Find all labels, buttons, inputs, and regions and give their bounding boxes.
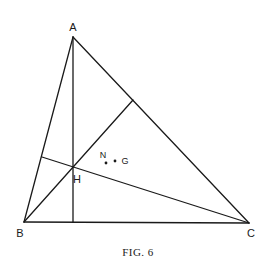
side-bc (24, 222, 249, 223)
point-g-dot (114, 160, 117, 163)
label-n: N (100, 150, 107, 160)
point-n-dot (105, 162, 108, 165)
label-g: G (121, 156, 128, 166)
label-h: H (73, 173, 81, 185)
label-b: B (16, 227, 23, 239)
figure-caption: FIG. 6 (122, 246, 154, 258)
label-a: A (69, 21, 77, 33)
label-c: C (247, 227, 255, 239)
triangle-diagram: A B C H N G FIG. 6 (0, 0, 271, 271)
